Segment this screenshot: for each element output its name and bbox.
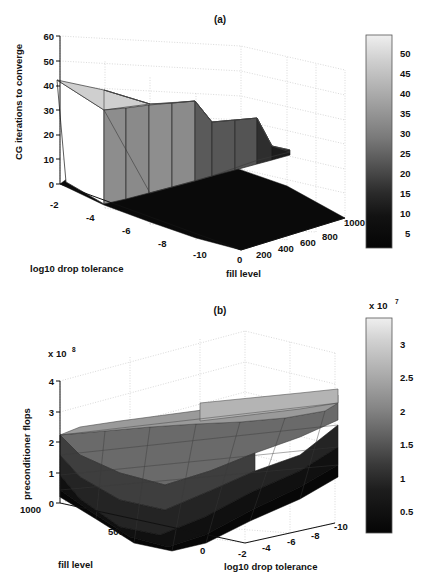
y-tick-b-500: 500	[108, 526, 124, 537]
panel-b-cb-exponent: 7	[395, 298, 399, 305]
y-tick-a-400: 400	[278, 243, 294, 254]
x-tick-b--4: -4	[262, 542, 271, 553]
panel-b-xaxis-label: log10 drop tolerance	[224, 561, 317, 572]
panel-b-z-exponent: 8	[72, 346, 76, 353]
panel-b-z-multiplier: x 10	[48, 348, 67, 359]
y-tick-a-200: 200	[256, 249, 272, 260]
cb-b-tick-0.5: 0.5	[400, 506, 414, 517]
z-tick-b-4: 4	[49, 376, 55, 387]
panel-a-colorbar: 50 45 40 35 30 25 20 15 10 5	[366, 35, 411, 248]
cb-b-tick-3: 3	[400, 339, 405, 350]
z-tick-b-0: 0	[49, 498, 54, 509]
panel-a-yaxis-label: fill level	[226, 268, 261, 279]
panel-a-plot: 60 50 40 30 20 10 0 CG iterations to con…	[0, 0, 440, 288]
z-tick-b-2: 2	[49, 437, 54, 448]
x-tick-a--6: -6	[122, 225, 130, 236]
panel-a-xaxis-label: log10 drop tolerance	[30, 263, 123, 274]
cb-b-tick-1.5: 1.5	[400, 439, 414, 450]
cb-a-tick-35: 35	[400, 108, 411, 119]
x-tick-b--2: -2	[238, 548, 246, 559]
panel-b-yaxis-label: fill level	[58, 559, 93, 570]
z-tick-a-50: 50	[43, 56, 54, 67]
cb-a-tick-20: 20	[400, 168, 411, 179]
panel-a-z-ticks: 60 50 40 30 20 10 0	[43, 31, 60, 190]
panel-b-x-ticks: -2 -4 -6 -8 -10	[238, 521, 348, 559]
cb-a-tick-40: 40	[400, 88, 411, 99]
y-tick-a-600: 600	[300, 237, 316, 248]
y-tick-a-0: 0	[237, 254, 242, 265]
panel-b-plot: 4 3 2 1 0 x 10 8 preconditioner flops 10…	[0, 285, 440, 573]
cb-a-tick-45: 45	[400, 68, 411, 79]
cb-a-tick-10: 10	[400, 208, 411, 219]
panel-b-z-ticks: 4 3 2 1 0	[49, 376, 60, 509]
z-tick-a-10: 10	[43, 154, 54, 165]
cb-a-tick-30: 30	[400, 128, 411, 139]
x-tick-b--10: -10	[334, 521, 348, 532]
y-tick-b-1000: 1000	[20, 504, 41, 515]
cb-a-tick-50: 50	[400, 48, 411, 59]
x-tick-a--10: -10	[193, 249, 207, 260]
y-tick-b-0: 0	[200, 545, 205, 556]
panel-a-zaxis-label: CG iterations to converge	[13, 44, 24, 160]
z-tick-a-0: 0	[49, 179, 54, 190]
z-tick-a-30: 30	[43, 105, 54, 116]
panel-a-surface	[57, 80, 345, 250]
cb-a-tick-5: 5	[405, 228, 411, 239]
y-tick-a-800: 800	[322, 231, 338, 242]
x-tick-b--6: -6	[287, 536, 295, 547]
panel-b-colorbar: x 10 7 3 2.5 2 1.5 1 0.5	[366, 298, 414, 533]
x-tick-a--2: -2	[50, 199, 58, 210]
y-tick-a-1000: 1000	[344, 217, 365, 228]
cb-b-tick-2.5: 2.5	[400, 372, 414, 383]
z-tick-a-40: 40	[43, 80, 54, 91]
z-tick-b-1: 1	[49, 468, 55, 479]
x-tick-a--4: -4	[86, 212, 95, 223]
cb-b-tick-1: 1	[400, 473, 406, 484]
z-tick-b-3: 3	[49, 407, 54, 418]
z-tick-a-60: 60	[43, 31, 54, 42]
cb-a-tick-15: 15	[400, 188, 411, 199]
x-tick-b--8: -8	[311, 530, 319, 541]
panel-b: (b)	[0, 285, 440, 573]
panel-a: (a)	[0, 0, 440, 288]
cb-a-tick-25: 25	[400, 148, 411, 159]
panel-b-zaxis-label: preconditioner flops	[21, 408, 32, 500]
panel-b-cb-multiplier: x 10	[369, 300, 388, 311]
x-tick-a--8: -8	[158, 238, 166, 249]
z-tick-a-20: 20	[43, 129, 54, 140]
panel-b-surface	[60, 389, 338, 551]
cb-b-tick-2: 2	[400, 406, 405, 417]
